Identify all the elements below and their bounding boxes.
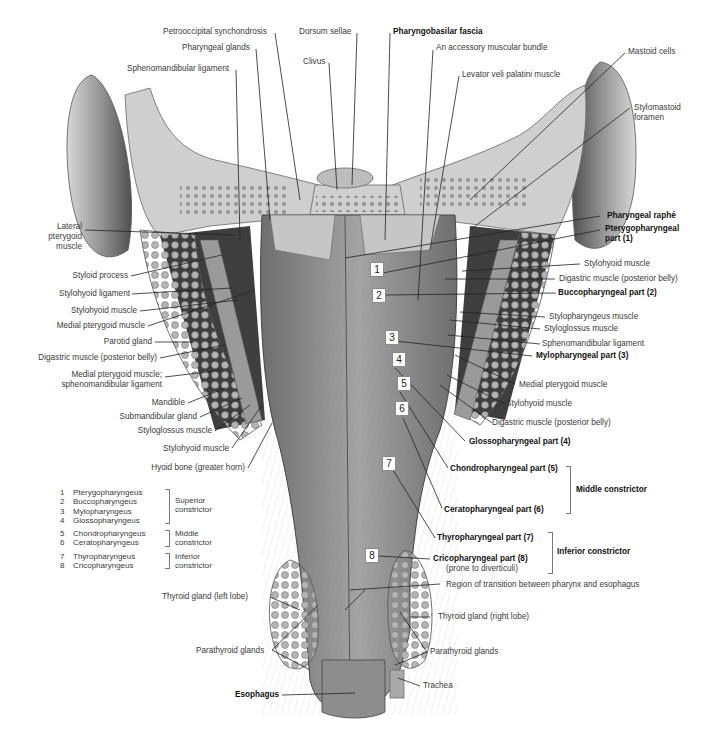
label-pharyngeal-glands: Pharyngeal glands	[182, 43, 250, 53]
label-stylohyoid-right: Stylohyoid muscle	[584, 259, 650, 269]
label-stylohyoid-right-2: Stylohyoid muscle	[506, 399, 572, 409]
legend-item: Glossopharyngeus	[73, 516, 165, 525]
label-medial-pterygoid-spheno: Medial pterygoid muscle;	[10, 370, 162, 380]
skull-base-right	[385, 85, 586, 235]
marker-8: 8	[365, 548, 379, 563]
label-petrooccipital-synchondrosis: Petrooccipital synchondrosis	[163, 27, 267, 37]
legend-num: 7	[60, 552, 73, 561]
label-chondropharyngeal: Chondropharyngeal part (5)	[450, 464, 558, 474]
legend-group-label: Superiorconstrictor	[175, 496, 212, 515]
marker-7: 7	[382, 456, 396, 471]
label-pterygopharyngeal: Pterygopharyngeal	[605, 224, 679, 234]
label-middle-constrictor: Middle constrictor	[576, 485, 647, 494]
legend-num: 5	[60, 529, 73, 538]
dorsum-sellae	[317, 168, 373, 188]
muscle-legend: 1Pterygopharyngeus 2Buccopharyngeus 3Myl…	[60, 488, 165, 574]
label-styloglossus-left: Styloglossus muscle	[60, 426, 212, 436]
label-stylohyoid-ligament: Stylohyoid ligament	[20, 289, 130, 299]
esophagus-shape	[322, 660, 385, 718]
label-accessory-muscular-bundle: An accessory muscular bundle	[436, 43, 548, 53]
label-dorsum-sellae: Dorsum sellae	[299, 27, 351, 37]
label-digastric-right: Digastric muscle (posterior belly)	[559, 274, 678, 284]
trachea-shape	[390, 670, 404, 698]
marker-4: 4	[392, 352, 406, 367]
label-inferior-constrictor: Inferior constrictor	[557, 547, 630, 556]
legend-num: 3	[60, 507, 73, 516]
pharynx-illustration	[0, 0, 711, 730]
label-mandible: Mandible	[60, 398, 185, 408]
label-parathyroid-left: Parathyroid glands	[196, 646, 264, 656]
legend-item: Cricopharyngeus	[73, 561, 165, 570]
legend-brace	[165, 489, 170, 524]
label-ceratopharyngeal: Ceratopharyngeal part (6)	[444, 505, 544, 515]
legend-num: 1	[60, 488, 73, 497]
label-pharyngobasilar-fascia: Pharyngobasilar fascia	[393, 27, 483, 37]
label-medial-pterygoid-spheno-2: sphenomandibular ligament	[10, 380, 162, 390]
label-submandibular-gland: Submandibular gland	[60, 412, 197, 422]
label-sphenomandibular-right: Sphenomandibular ligament	[542, 339, 644, 349]
label-digastric-right-2: Digastric muscle (posterior belly)	[492, 418, 611, 428]
label-stylohyoid-muscle-left-2: Stylohyoid muscle	[60, 444, 229, 454]
label-pharyngeal-raphe: Pharyngeal raphé	[607, 211, 676, 221]
label-transition-region: Region of transition between pharynx and…	[446, 580, 639, 590]
legend-num: 8	[60, 561, 73, 570]
marker-6: 6	[395, 401, 409, 416]
legend-group-label: Middleconstrictor	[175, 529, 212, 548]
label-sphenomandibular-ligament-top: Sphenomandibular ligament	[127, 64, 229, 74]
label-clivus: Clivus	[303, 57, 325, 67]
label-digastric-left: Digastric muscle (posterior belly)	[10, 353, 157, 363]
label-stylomastoid-foramen: Stylomastoid foramen	[634, 103, 694, 123]
marker-3: 3	[385, 330, 399, 345]
legend-item: Buccopharyngeus	[73, 497, 165, 506]
label-parathyroid-right: Parathyroid glands	[430, 647, 498, 657]
legend-superior: 1Pterygopharyngeus 2Buccopharyngeus 3Myl…	[60, 488, 165, 525]
marker-1: 1	[370, 262, 384, 277]
legend-num: 6	[60, 538, 73, 547]
legend-group-label: Inferiorconstrictor	[175, 552, 212, 571]
legend-inferior: 7Thyropharyngeus 8Cricopharyngeus Inferi…	[60, 552, 165, 571]
label-cricopharyngeal: Cricopharyngeal part (8)	[433, 554, 528, 564]
label-thyropharyngeal: Thyropharyngeal part (7)	[437, 533, 533, 543]
label-stylopharyngeus: Stylopharyngeus muscle	[549, 312, 638, 322]
legend-item: Ceratopharyngeus	[73, 538, 165, 547]
legend-brace	[165, 530, 170, 547]
label-buccopharyngeal: Buccopharyngeal part (2)	[558, 288, 657, 298]
marker-5: 5	[397, 376, 411, 391]
middle-constrictor-bracket	[566, 466, 571, 514]
anatomy-figure: Petrooccipital synchondrosis Dorsum sell…	[0, 0, 711, 730]
legend-num: 2	[60, 497, 73, 506]
legend-num: 4	[60, 516, 73, 525]
label-cricopharyngeal-note: (prone to diverticuli)	[446, 564, 518, 574]
label-styloglossus-right: Styloglossus muscle	[544, 324, 618, 334]
label-medial-pterygoid-left: Medial pterygoid muscle	[20, 321, 145, 331]
label-pterygopharyngeal-2: part (1)	[605, 234, 633, 244]
legend-item: Chondropharyngeus	[73, 529, 165, 538]
label-parotid-gland: Parotid gland	[20, 337, 152, 347]
label-thyroid-right-lobe: Thyroid gland (right lobe)	[438, 612, 529, 622]
label-mastoid-cells: Mastoid cells	[628, 47, 675, 57]
label-stylohyoid-muscle-left: Stylohyoid muscle	[20, 306, 137, 316]
legend-item: Pterygopharyngeus	[73, 488, 165, 497]
label-glossopharyngeal: Glossopharyngeal part (4)	[469, 437, 570, 447]
label-mylopharyngeal: Mylopharyngeal part (3)	[536, 351, 628, 361]
legend-item: Mylopharyngeus	[73, 507, 165, 516]
label-medial-pterygoid-right: Medial pterygoid muscle	[519, 380, 607, 390]
label-styloid-process: Styloid process	[20, 271, 128, 281]
label-hyoid-bone: Hyoid bone (greater horn)	[60, 463, 245, 473]
label-esophagus: Esophagus	[235, 690, 279, 700]
label-thyroid-left-lobe: Thyroid gland (left lobe)	[162, 592, 248, 602]
legend-middle: 5Chondropharyngeus 6Ceratopharyngeus Mid…	[60, 529, 165, 548]
label-levator-veli-palatini: Levator veli palatini muscle	[462, 70, 560, 80]
legend-item: Thyropharyngeus	[73, 552, 165, 561]
label-lateral-pterygoid: Lateral pterygoid muscle	[30, 222, 82, 252]
legend-brace	[165, 553, 170, 570]
label-trachea: Trachea	[423, 681, 453, 691]
inferior-constrictor-bracket	[548, 532, 553, 574]
marker-2: 2	[372, 288, 386, 303]
